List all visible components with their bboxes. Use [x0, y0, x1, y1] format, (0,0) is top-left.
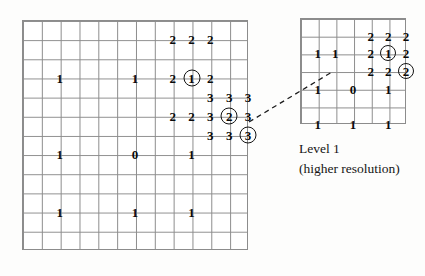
cell-digit: 3	[226, 90, 233, 103]
cell-digit: 0	[350, 82, 357, 95]
cell-digit: 1	[132, 71, 139, 84]
cell-digit: 2	[169, 71, 176, 84]
circled-cell-digit: 3	[245, 129, 252, 142]
cell-digit: 1	[332, 47, 339, 60]
level-1-caption: Level 1 (higher resolution)	[299, 139, 423, 178]
cell-digit: 2	[188, 109, 195, 122]
cell-digit: 2	[385, 29, 392, 42]
cell-digit: 3	[207, 90, 214, 103]
cell-digit: 3	[226, 129, 233, 142]
cell-digit: 2	[169, 33, 176, 46]
circled-cell-digit: 1	[385, 47, 392, 60]
cell-digit: 1	[188, 148, 195, 161]
cell-digit: 2	[367, 65, 374, 78]
cell-digit: 1	[314, 82, 321, 95]
circled-cell-digit: 1	[188, 71, 195, 84]
cell-digit: 1	[314, 47, 321, 60]
cell-digit: 3	[245, 109, 252, 122]
cell-digit: 2	[367, 47, 374, 60]
cell-digit: 3	[207, 109, 214, 122]
cell-digit: 2	[169, 109, 176, 122]
cell-digit: 1	[56, 71, 63, 84]
cell-digit: 1	[350, 118, 357, 131]
cell-digit: 2	[403, 29, 410, 42]
cell-digit: 2	[207, 71, 214, 84]
cell-digit: 1	[314, 118, 321, 131]
circled-cell-digit: 2	[403, 65, 410, 78]
figure-canvas: 2221121233322323333101111 22211212222101…	[0, 0, 425, 276]
caption-line-1: Level 1	[299, 139, 423, 159]
cell-digit: 2	[188, 33, 195, 46]
cell-digit: 2	[367, 29, 374, 42]
cell-digit: 2	[207, 33, 214, 46]
cell-digit: 1	[56, 205, 63, 218]
cell-digit: 2	[403, 47, 410, 60]
cell-digit: 1	[385, 118, 392, 131]
cell-digit: 1	[56, 148, 63, 161]
cell-digit: 1	[385, 82, 392, 95]
caption-line-2: (higher resolution)	[299, 159, 423, 179]
cell-digit: 3	[207, 129, 214, 142]
cell-digit: 1	[132, 205, 139, 218]
cell-digit: 3	[245, 90, 252, 103]
cell-digit: 1	[188, 205, 195, 218]
circled-cell-digit: 2	[226, 109, 233, 122]
cell-digit: 2	[385, 65, 392, 78]
cell-digit: 0	[132, 148, 139, 161]
